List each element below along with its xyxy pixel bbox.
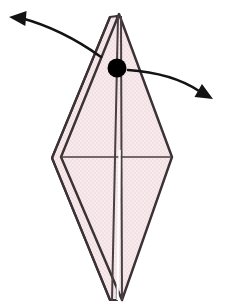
center-crease-right: [121, 16, 122, 300]
pivot-dot-icon: [108, 59, 127, 78]
left-arrow-head-icon: [9, 11, 27, 26]
left-arrow-shaft: [21, 18, 101, 57]
origami-figure-svg: [0, 0, 232, 304]
left-swing-arrow: [9, 11, 101, 57]
origami-diagram: [0, 0, 232, 304]
right-arrow-head-icon: [195, 84, 213, 99]
